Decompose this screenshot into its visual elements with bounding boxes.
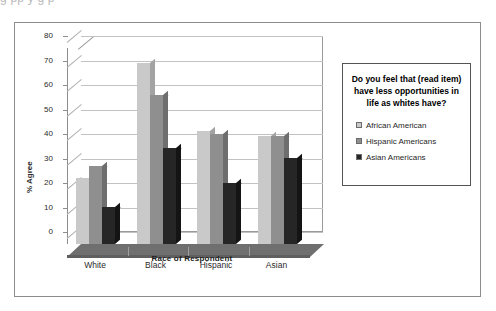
y-tick-mark-80 <box>63 36 68 37</box>
figure-frame: % Agree 80706050403020100 WhiteBlackHisp… <box>14 22 481 297</box>
bar-front-face <box>258 136 271 244</box>
bar-side-face <box>176 144 181 244</box>
y-axis-tick-labels: 80706050403020100 <box>29 23 53 298</box>
bar-side-face <box>236 179 241 244</box>
y-tick-mark-20 <box>63 183 68 184</box>
y-axis-tick-0: 0 <box>31 228 53 236</box>
legend-swatch-icon <box>356 122 362 128</box>
y-tick-mark-70 <box>63 61 68 62</box>
bar-asian-hispanic-americans <box>271 136 284 244</box>
y-tick-mark-60 <box>63 85 68 86</box>
y-axis-tick-30: 30 <box>31 155 53 163</box>
y-tick-mark-50 <box>63 110 68 111</box>
bar-black-hispanic-americans <box>150 95 163 244</box>
bar-group-asian <box>258 48 307 244</box>
bar-front-face <box>150 95 163 244</box>
legend-panel: Do you feel that (read item) have less o… <box>342 63 471 186</box>
x-axis-title: Race of Respondent <box>67 254 317 263</box>
y-tick-mark-0 <box>63 232 68 233</box>
bar-hispanic-african-american <box>197 131 210 244</box>
bar-front-face <box>102 207 115 244</box>
bar-asian-african-american <box>258 136 271 244</box>
bar-group-hispanic <box>197 48 246 244</box>
plot-area: WhiteBlackHispanicAsian <box>67 48 309 244</box>
legend-swatch-icon <box>356 154 362 160</box>
bar-front-face <box>271 136 284 244</box>
y-axis-tick-70: 70 <box>31 57 53 65</box>
cut-off-caption-text: g pp y g p <box>0 0 496 7</box>
bar-group-black <box>137 48 186 244</box>
bar-white-asian-americans <box>102 207 115 244</box>
bar-group-white <box>76 48 125 244</box>
legend-item-label: Asian Americans <box>366 153 426 162</box>
bar-front-face <box>137 63 150 244</box>
bar-chart: % Agree 80706050403020100 WhiteBlackHisp… <box>15 23 345 298</box>
legend-swatch-icon <box>356 138 362 144</box>
bar-front-face <box>284 158 297 244</box>
bar-front-face <box>163 148 176 244</box>
bar-white-hispanic-americans <box>89 166 102 244</box>
bar-hispanic-asian-americans <box>223 183 236 244</box>
legend-item-label: Hispanic Americans <box>366 137 436 146</box>
bar-hispanic-hispanic-americans <box>210 134 223 244</box>
bar-white-african-american <box>76 178 89 244</box>
bar-front-face <box>89 166 102 244</box>
legend-items: African AmericanHispanic AmericansAsian … <box>343 118 470 164</box>
legend-item-african-american: African American <box>356 118 470 132</box>
bar-front-face <box>210 134 223 244</box>
legend-item-hispanic-americans: Hispanic Americans <box>356 134 470 148</box>
y-axis-tick-20: 20 <box>31 179 53 187</box>
y-axis-tick-40: 40 <box>31 130 53 138</box>
bar-black-african-american <box>137 63 150 244</box>
y-tick-mark-40 <box>63 134 68 135</box>
legend-item-asian-americans: Asian Americans <box>356 150 470 164</box>
bar-front-face <box>76 178 89 244</box>
bar-side-face <box>297 154 302 244</box>
legend-title: Do you feel that (read item) have less o… <box>343 64 470 109</box>
gridline-80 <box>81 36 323 37</box>
bar-asian-asian-americans <box>284 158 297 244</box>
bar-front-face <box>223 183 236 244</box>
y-tick-mark-10 <box>63 208 68 209</box>
y-axis-tick-50: 50 <box>31 106 53 114</box>
y-axis-tick-10: 10 <box>31 204 53 212</box>
bar-black-asian-americans <box>163 148 176 244</box>
y-tick-mark-30 <box>63 159 68 160</box>
y-axis-tick-60: 60 <box>31 81 53 89</box>
bar-front-face <box>197 131 210 244</box>
bar-side-face <box>115 203 120 244</box>
legend-item-label: African American <box>366 121 426 130</box>
y-axis-tick-80: 80 <box>31 32 53 40</box>
